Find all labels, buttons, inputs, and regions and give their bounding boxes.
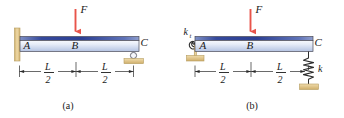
- fixed-wall-support-a: [15, 28, 21, 61]
- roller-base-pad: [124, 59, 144, 64]
- dim-arrowhead-left: [20, 70, 25, 73]
- dim-arrowhead-left: [195, 70, 200, 73]
- spring-label-k: k: [318, 63, 323, 74]
- dimension-label-b-left: L 2: [219, 61, 229, 85]
- beam-body-b: [195, 37, 313, 52]
- dim-denominator: 2: [46, 74, 51, 85]
- dim-numerator: L: [219, 61, 226, 72]
- coil-spring-support-b: [300, 52, 319, 90]
- roller-circle-icon: [130, 52, 136, 58]
- dim-arrowhead-right: [129, 70, 134, 73]
- beam-top-flange: [20, 37, 139, 41]
- dim-numerator: L: [101, 61, 108, 72]
- dim-arrowhead-left: [251, 70, 256, 73]
- torsional-spring-label-b: k t: [184, 26, 192, 39]
- point-label-b-C: C: [315, 36, 323, 48]
- point-label-b-A: A: [199, 39, 207, 51]
- dimension-label-a-left: L 2: [44, 61, 54, 85]
- dim-denominator: 2: [278, 74, 283, 85]
- point-label-a-A: A: [23, 39, 31, 51]
- dimension-label-b-right: L 2: [276, 61, 286, 85]
- dim-numerator: L: [276, 61, 283, 72]
- panel-a: F A B C L 2: [15, 3, 149, 112]
- panel-caption-a: (a): [62, 100, 73, 112]
- beam-web: [20, 41, 139, 52]
- wall-block-icon: [15, 28, 21, 61]
- panel-b: k t k F A B C: [184, 3, 324, 112]
- dim-arrowhead-right: [246, 70, 251, 73]
- beam-diagram-svg: F A B C L 2: [0, 0, 344, 118]
- roller-support-a: [124, 52, 144, 63]
- point-label-a-B: B: [72, 39, 79, 51]
- spring-ground-pad: [300, 84, 319, 90]
- dim-denominator: 2: [221, 74, 226, 85]
- beam-body-a: [20, 37, 139, 52]
- point-label-b-B: B: [247, 39, 254, 51]
- dim-arrowhead-right: [71, 70, 76, 73]
- panel-caption-b: (b): [246, 100, 258, 112]
- beam-figure-root: F A B C L 2: [0, 0, 344, 118]
- spring-subscript-kt: t: [190, 32, 192, 39]
- beam-web: [195, 41, 313, 52]
- force-label-b: F: [255, 3, 263, 15]
- point-label-a-C: C: [141, 36, 149, 48]
- dim-denominator: 2: [103, 74, 108, 85]
- force-label-a: F: [80, 3, 88, 15]
- dim-arrowhead-left: [76, 70, 81, 73]
- pin-base-pad: [187, 56, 205, 62]
- dimension-label-a-right: L 2: [101, 61, 111, 85]
- dim-numerator: L: [44, 61, 51, 72]
- spring-label-kt: k: [184, 26, 189, 37]
- beam-top-flange: [195, 37, 313, 41]
